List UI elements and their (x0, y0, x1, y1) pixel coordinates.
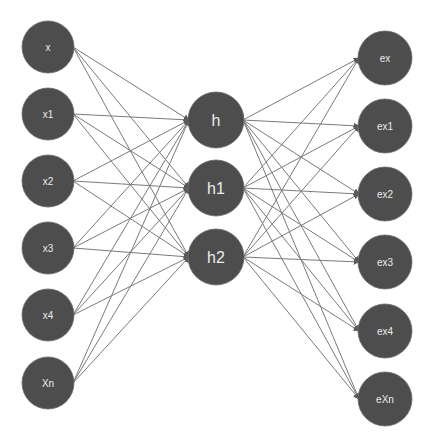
node-label: x4 (43, 310, 54, 321)
edge-Xn-to-h2 (73, 257, 189, 383)
edge-x1-to-h (73, 114, 189, 120)
edge-h2-to-ex1 (243, 126, 359, 257)
edge-Xn-to-h (73, 120, 189, 383)
edge-x2-to-h2 (73, 181, 189, 257)
edge-h2-to-ex (243, 58, 359, 257)
edge-h2-to-ex4 (243, 257, 359, 331)
node-x2: x2 (22, 155, 74, 207)
edge-x3-to-h (73, 120, 189, 248)
edge-h2-to-eXn (243, 257, 359, 399)
node-label: eXn (376, 394, 394, 405)
node-h: h (188, 92, 244, 148)
node-ex2: ex2 (358, 167, 412, 221)
node-h1: h1 (188, 160, 244, 216)
node-ex1: ex1 (358, 99, 412, 153)
edge-x-to-h2 (73, 47, 189, 257)
node-label: ex4 (377, 326, 394, 337)
node-ex: ex (358, 31, 412, 85)
edge-x2-to-h (73, 120, 189, 181)
node-label: x3 (43, 243, 54, 254)
node-label: x2 (43, 176, 54, 187)
node-label: ex (380, 53, 391, 64)
node-x1: x1 (22, 88, 74, 140)
node-x3: x3 (22, 222, 74, 274)
node-label: x (46, 42, 51, 53)
node-Xn: Xn (22, 357, 74, 409)
hidden-layer: hh1h2 (188, 92, 244, 285)
node-label: h2 (207, 249, 225, 266)
node-ex4: ex4 (358, 304, 412, 358)
edge-h1-to-ex (243, 58, 359, 188)
edge-h-to-ex (243, 58, 359, 120)
node-x4: x4 (22, 289, 74, 341)
node-label: Xn (42, 378, 54, 389)
edge-h2-to-ex2 (243, 194, 359, 257)
node-label: x1 (43, 109, 54, 120)
node-h2: h2 (188, 229, 244, 285)
node-eXn: eXn (358, 372, 412, 426)
input-layer: xx1x2x3x4Xn (22, 21, 74, 409)
edge-x1-to-h2 (73, 114, 189, 257)
output-layer: exex1ex2ex3ex4eXn (358, 31, 412, 426)
edge-h2-to-ex3 (243, 257, 359, 262)
edge-x-to-h (73, 47, 189, 120)
node-label: h (212, 112, 221, 129)
node-label: ex3 (377, 257, 394, 268)
neural-network-diagram: xx1x2x3x4Xnhh1h2exex1ex2ex3ex4eXn (0, 0, 432, 441)
node-label: ex1 (377, 121, 394, 132)
node-label: h1 (207, 180, 225, 197)
node-x: x (22, 21, 74, 73)
node-label: ex2 (377, 189, 394, 200)
node-ex3: ex3 (358, 235, 412, 289)
